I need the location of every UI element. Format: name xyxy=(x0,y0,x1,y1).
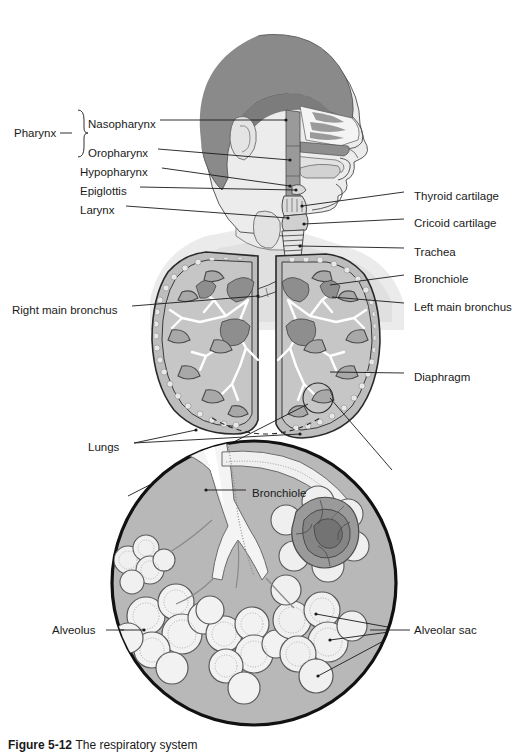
label-alveolar-sac: Alveolar sac xyxy=(414,624,477,636)
label-bronchiole: Bronchiole xyxy=(414,273,468,285)
respiratory-system-figure: Pharynx Nasopharynx Oropharynx Hypophary… xyxy=(0,0,524,752)
label-larynx: Larynx xyxy=(80,204,115,216)
label-nasopharynx: Nasopharynx xyxy=(88,118,156,130)
label-hypopharynx: Hypopharynx xyxy=(80,166,148,178)
label-thyroid-cartilage: Thyroid cartilage xyxy=(414,190,499,202)
label-alveolus: Alveolus xyxy=(52,624,95,636)
label-lungs: Lungs xyxy=(88,441,119,453)
label-epiglottis: Epiglottis xyxy=(80,185,127,197)
label-inset-bronchiole: Bronchiole xyxy=(252,487,306,499)
label-trachea: Trachea xyxy=(414,246,456,258)
label-oropharynx: Oropharynx xyxy=(88,147,148,159)
label-cricoid-cartilage: Cricoid cartilage xyxy=(414,217,496,229)
label-left-main-bronchus: Left main bronchus xyxy=(414,301,512,313)
alveoli-inset xyxy=(106,440,410,725)
figure-caption-text: The respiratory system xyxy=(75,738,197,752)
label-right-main-bronchus: Right main bronchus xyxy=(12,304,117,316)
label-diaphragm: Diaphragm xyxy=(414,371,470,383)
tongue xyxy=(300,164,341,178)
label-pharynx: Pharynx xyxy=(14,127,56,139)
figure-caption-number: Figure 5-12 xyxy=(8,738,72,752)
pharynx-brace xyxy=(78,110,88,157)
figure-caption: Figure 5-12 The respiratory system xyxy=(8,738,197,752)
leader-cricoid-cartilage xyxy=(304,219,404,224)
